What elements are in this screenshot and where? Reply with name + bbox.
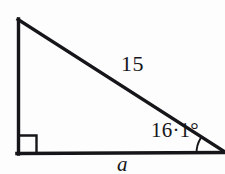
hypotenuse-length-label: 15: [121, 53, 144, 75]
base-length-label: a: [117, 154, 128, 174]
geometry-figure: 15 16·1° a: [0, 0, 225, 174]
triangle-drawing: [0, 0, 225, 174]
base-angle-label: 16·1°: [151, 120, 199, 141]
right-angle-square-icon: [19, 136, 37, 154]
